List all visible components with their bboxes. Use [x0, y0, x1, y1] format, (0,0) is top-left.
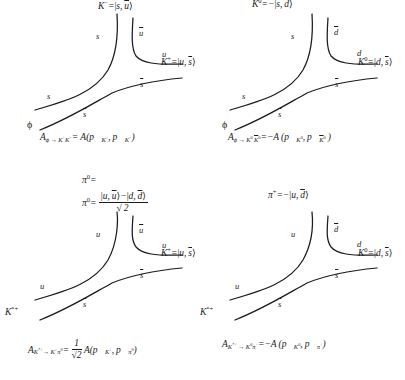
- quark-lines-bottom-right: [200, 190, 405, 345]
- state-label-k0-top: K0=−|s, d⟩: [252, 0, 293, 10]
- pi0-fraction: |u, u⟩−|d, d⟩ √ 2: [99, 191, 148, 214]
- quark-label-dbar: d: [334, 225, 338, 234]
- state-label-kplus: K+=|u, s⟩: [161, 249, 196, 259]
- parent-label-phi: ϕ: [222, 120, 227, 130]
- quark-label-s-upper: s: [291, 32, 294, 41]
- amplitude-Kstar-to-K0piplus: AK*+ → K0π+=−A (p⃗K0, p⃗π+): [222, 340, 326, 350]
- panel-Kstar-to-Kpluspi0: π0= π0= |u, u⟩−|d, d⟩ √ 2 u u u u s s K*…: [0, 190, 200, 345]
- state-label-kminus: K−=|s, u⟩: [98, 2, 133, 12]
- figure-canvas: K−=|s, u⟩ s s u u s s ϕ K+=|u, s⟩ K0=−|s…: [0, 0, 405, 380]
- parent-label-phi: ϕ: [27, 120, 32, 130]
- quark-label-sbar-upper: s: [140, 271, 143, 280]
- state-label-k0-right: K0=|d, s⟩: [358, 58, 392, 68]
- quark-label-ubar: u: [139, 29, 143, 38]
- quark-label-sbar-lower: s: [278, 300, 281, 309]
- quark-label-u-lower: u: [40, 282, 44, 291]
- state-label-pi0-line1: π0=: [82, 176, 96, 186]
- quark-label-u-upper: u: [96, 230, 100, 239]
- one-over-sqrt2: 1 √2: [72, 338, 82, 361]
- quark-label-u-lower: u: [235, 282, 239, 291]
- amplitude-Kstar-to-Kpluspi0: AK*+→ K+π0= 1 √2 A(p⃗K+, p⃗π0): [28, 338, 137, 361]
- panel-Kstar-to-K0piplus: π+=−|u, d⟩ u u d d s s K*+ K0=|d, s⟩: [200, 190, 405, 345]
- quark-label-ubar: u: [139, 226, 143, 235]
- quark-label-sbar-lower: s: [278, 110, 281, 119]
- quark-label-dbar: d: [334, 28, 338, 37]
- quark-label-sbar-lower: s: [83, 300, 86, 309]
- amplitude-phi-to-KplusKminus: Aϕ → K+K−= A(p⃗K+, p⃗K−): [40, 133, 135, 143]
- state-label-pi0-line2: π0= |u, u⟩−|d, d⟩ √ 2: [82, 191, 148, 214]
- quark-label-u-upper: u: [291, 230, 295, 239]
- quark-label-sbar-upper: s: [335, 80, 338, 89]
- state-label-kplus: K+=|u, s⟩: [161, 58, 196, 68]
- parent-label-kstar: K*+: [5, 308, 18, 318]
- parent-label-kstar: K*+: [200, 308, 213, 318]
- state-label-piplus: π+=−|u, d⟩: [268, 191, 309, 201]
- quark-label-sbar-upper: s: [335, 271, 338, 280]
- quark-label-s-lower: s: [242, 92, 245, 101]
- quark-label-sbar-upper: s: [140, 80, 143, 89]
- state-label-k0: K0=|d, s⟩: [358, 249, 392, 259]
- quark-label-sbar-lower: s: [83, 110, 86, 119]
- amplitude-phi-to-K0K0bar: Aϕ → K0 K0=−A (p⃗K0, p⃗K0 ): [228, 133, 331, 143]
- quark-label-s-upper: s: [96, 32, 99, 41]
- quark-label-s-lower: s: [47, 92, 50, 101]
